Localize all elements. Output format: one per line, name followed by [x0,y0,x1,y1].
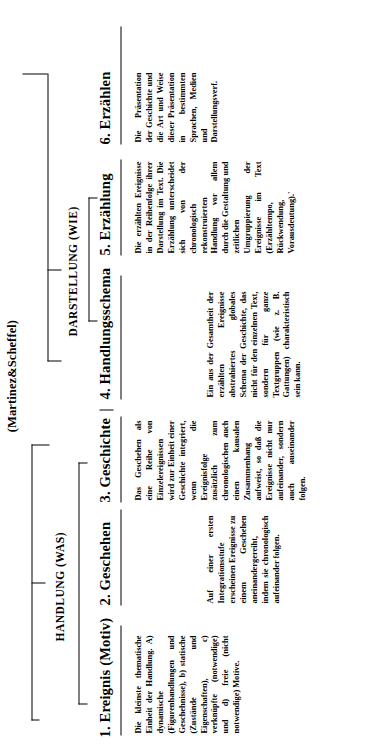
group-label-darstellung: DARSTELLUNG (WIE) [66,206,78,336]
darstellung-bracket-right-tick [22,73,47,74]
column-underline-6 [120,26,121,144]
column-heading-3: 3. Geschichte [96,417,113,502]
column-underline-4 [120,275,121,399]
handlung-subbracket-tick-1 [78,703,87,704]
column-heading-4: 4. Handlungsschema [96,267,113,399]
handlung-subbracket [78,462,79,704]
column-body-3: Das Geschehen als eine Reihe von Einzele… [133,420,308,500]
column-underline-3 [120,416,121,502]
column-body-4: Ein aus der Gesamtheit der erzählten Ere… [205,291,303,397]
column-heading-2: 2. Geschehen [96,521,113,605]
column-body-6: Die Präsentation der Geschichte und die … [133,72,220,142]
darstellung-bracket-stem [47,269,61,270]
diagram-canvas: (Martinez&Scheffel) HANDLUNG (WAS) DARST… [0,0,369,751]
column-underline-1 [120,625,121,735]
column-underline-2 [120,509,121,605]
group-label-handlung: HANDLUNG (WAS) [53,531,65,641]
darstellung-subbracket [88,197,89,321]
column-body-1: Die kleinste thematische Einheit der Han… [133,635,242,733]
column-heading-5: 5. Erzählung [96,173,113,255]
darstellung-bracket-top [47,73,48,361]
source-attribution: (Martinez&Scheffel) [4,0,19,751]
column-heading-1: 1. Ereignis (Motiv) [96,617,113,737]
column-heading-6: 6. Erzählen [96,71,113,144]
column-body-2: Auf einer ersten Integrationsstufe ersch… [205,515,281,603]
head-separator-tick [99,409,113,410]
handlung-subbracket-tick-4 [78,462,87,463]
darstellung-bracket-left-tick [47,360,61,361]
handlung-bracket-stem [31,582,45,583]
column-body-5: Die erzählten Ereignisse in der Reihenfo… [133,161,297,253]
handlung-bracket-right-tick [31,444,49,445]
handlung-bracket-left-tick [31,719,39,720]
column-underline-5 [120,159,121,255]
